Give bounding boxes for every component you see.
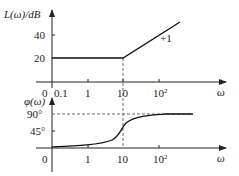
bode-diagram: L(ω)/dB 40 20 0 0.1 1 10 102 ω +1 φ(ω) 9… (0, 0, 239, 176)
magnitude-y-label: L(ω)/dB (3, 8, 41, 21)
tick-1-top: 1 (85, 87, 91, 99)
tick-0-1: 0.1 (54, 87, 68, 99)
tick-40: 40 (34, 29, 46, 41)
slope-label: +1 (160, 32, 172, 44)
tick-100-bottom: 102 (153, 153, 168, 165)
tick-10-top: 10 (117, 87, 129, 99)
tick-10-bottom: 10 (117, 153, 129, 165)
omega-label-bottom: ω (217, 152, 225, 164)
phase-y-label: φ(ω) (24, 95, 46, 108)
tick-1-bottom: 1 (85, 153, 91, 165)
tick-20: 20 (34, 52, 46, 64)
tick-100-top: 102 (153, 87, 168, 99)
omega-label-top: ω (217, 86, 225, 98)
phase-curve (52, 114, 193, 147)
tick-45: 45° (30, 125, 45, 137)
phase-plot: φ(ω) 90° 45° 0 1 10 102 ω (24, 95, 226, 172)
tick-90: 90° (27, 108, 42, 120)
origin-bottom: 0 (42, 153, 48, 165)
